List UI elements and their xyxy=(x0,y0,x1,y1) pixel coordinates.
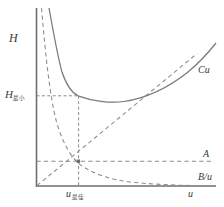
u-opt-label: u最佳 xyxy=(66,189,83,199)
plot-canvas xyxy=(0,0,224,207)
curve-label-bu: B/u xyxy=(198,172,212,182)
h-min-subscript: 最小 xyxy=(13,95,25,101)
curve-H-total xyxy=(49,8,216,102)
figure-container: H H最小 u最佳 u Cu A B/u xyxy=(0,0,224,207)
h-min-label: H最小 xyxy=(5,89,25,100)
curve-label-a: A xyxy=(203,149,209,159)
u-opt-subscript: 最佳 xyxy=(72,194,84,200)
h-min-base: H xyxy=(5,88,13,100)
y-axis-label: H xyxy=(9,32,18,44)
curve-Cu xyxy=(37,54,197,186)
curve-B-over-u xyxy=(42,8,206,186)
intersection-marker xyxy=(77,160,80,163)
curve-label-cu: Cu xyxy=(198,65,210,75)
axes xyxy=(36,8,216,187)
x-axis-label: u xyxy=(188,189,193,199)
u-opt-base: u xyxy=(66,188,71,199)
